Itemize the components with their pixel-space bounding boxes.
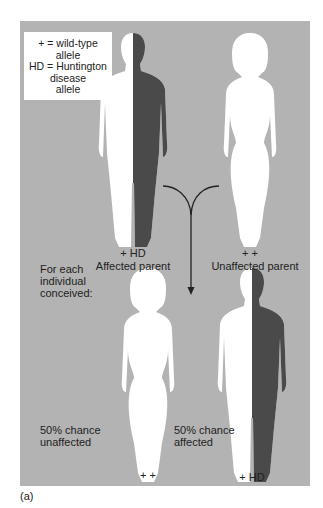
offspring-unaffected-genotype: + + bbox=[133, 469, 163, 481]
legend-hd-cont2: allele bbox=[24, 84, 112, 96]
arrow-head-icon bbox=[188, 287, 195, 295]
unaffected-parent-label: Unaffected parent bbox=[205, 260, 305, 272]
offspring-affected-silhouette bbox=[218, 268, 287, 482]
offspring-unaffected-silhouette bbox=[122, 268, 175, 482]
offspring-affected-status: affected bbox=[174, 436, 213, 448]
offspring-unaffected-status: unaffected bbox=[40, 436, 91, 448]
affected-parent-label: Affected parent bbox=[88, 260, 178, 272]
offspring-unaffected-chance: 50% chance bbox=[40, 424, 101, 436]
offspring-intro-2: individual bbox=[40, 275, 86, 287]
unaffected-parent-silhouette bbox=[224, 33, 277, 247]
legend-box: + = wild-type allele HD = Huntington dis… bbox=[24, 32, 112, 100]
offspring-affected-chance: 50% chance bbox=[174, 424, 235, 436]
affected-parent-genotype: + HD bbox=[113, 247, 153, 259]
offspring-intro-1: For each bbox=[40, 263, 83, 275]
offspring-intro-3: conceived: bbox=[40, 287, 93, 299]
legend-wildtype: + = wild-type bbox=[24, 38, 112, 50]
offspring-affected-genotype: + HD bbox=[232, 471, 272, 483]
unaffected-parent-genotype: + + bbox=[230, 247, 270, 259]
figure-caption: (a) bbox=[20, 490, 33, 502]
legend-hd: HD = Huntington bbox=[24, 61, 112, 73]
